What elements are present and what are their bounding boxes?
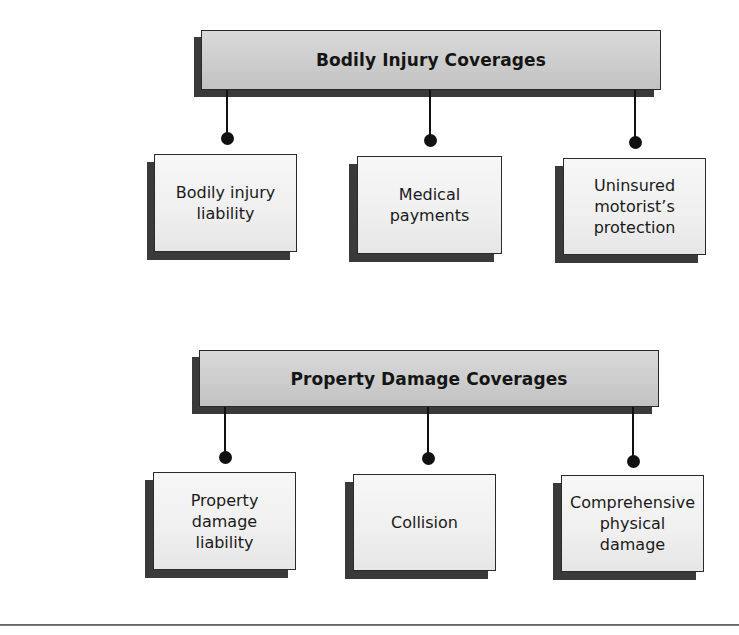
coverage-box-collision: Collision [353,474,496,571]
section-title: Property Damage Coverages [290,369,567,389]
coverage-box-property-damage-liability: Property damage liability [153,472,296,570]
connector-dot-icon [221,132,234,145]
connector-line [632,407,634,461]
connector-dot-icon [424,134,437,147]
coverage-label: Bodily injury liability [176,182,276,224]
coverage-box-bodily-injury-liability: Bodily injury liability [154,154,297,252]
coverage-label: Collision [391,512,458,533]
coverage-box-uninsured-motorist: Uninsured motorist’s protection [563,158,706,255]
coverage-label: Property damage liability [191,490,259,553]
connector-line [429,90,431,140]
connector-dot-icon [629,136,642,149]
coverage-label: Comprehensive physical damage [570,492,695,555]
connector-dot-icon [627,455,640,468]
section-header-property-damage: Property Damage Coverages [199,350,659,407]
bottom-divider [0,624,739,626]
connector-dot-icon [219,451,232,464]
connector-line [427,407,429,458]
coverage-label: Uninsured motorist’s protection [594,175,676,238]
coverage-box-comprehensive: Comprehensive physical damage [561,475,704,572]
coverage-diagram: Bodily Injury Coverages Bodily injury li… [0,0,739,635]
section-title: Bodily Injury Coverages [316,50,546,70]
coverage-box-medical-payments: Medical payments [357,156,502,254]
connector-line [634,90,636,142]
coverage-label: Medical payments [390,184,470,226]
connector-line [226,90,228,138]
connector-line [224,407,226,457]
connector-dot-icon [422,452,435,465]
section-header-bodily-injury: Bodily Injury Coverages [201,30,661,90]
